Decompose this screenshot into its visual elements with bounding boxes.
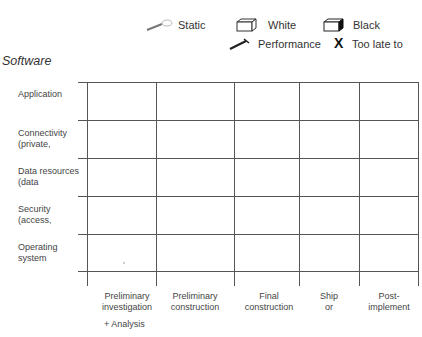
grid-vline bbox=[156, 82, 157, 286]
row-label: Security (access, bbox=[18, 204, 98, 226]
black-box-icon bbox=[323, 18, 345, 32]
grid-hline bbox=[78, 158, 419, 159]
column-label: Preliminary investigation bbox=[93, 291, 161, 313]
x-icon: X bbox=[334, 35, 343, 51]
row-label: Application bbox=[18, 89, 98, 100]
legend-label-white: White bbox=[268, 19, 296, 31]
grid-vline bbox=[359, 82, 360, 286]
legend-label-too-late: Too late to bbox=[352, 38, 403, 50]
legend-label-static: Static bbox=[178, 19, 206, 31]
performance-icon bbox=[228, 37, 252, 51]
column-label: Final construction bbox=[236, 291, 302, 313]
grid-hline bbox=[78, 271, 419, 272]
grid-hline bbox=[78, 120, 419, 121]
grid-hline bbox=[78, 234, 419, 235]
legend-label-black: Black bbox=[353, 19, 380, 31]
grid-vline bbox=[418, 82, 419, 286]
column-label: Ship or bbox=[304, 291, 354, 313]
column-label: Preliminary construction bbox=[162, 291, 228, 313]
footnote-analysis: + Analysis bbox=[104, 319, 145, 330]
row-label: Data resources (data bbox=[18, 166, 98, 188]
grid-vline bbox=[234, 82, 235, 286]
grid-vline bbox=[87, 82, 88, 286]
diagram-title: Software bbox=[2, 54, 51, 68]
row-label: Operating system bbox=[18, 242, 98, 264]
legend-label-performance: Performance bbox=[258, 38, 321, 50]
column-label: Post- implement bbox=[357, 291, 421, 313]
static-icon bbox=[145, 18, 175, 32]
white-box-icon bbox=[236, 18, 258, 32]
row-label: Connectivity (private, bbox=[18, 128, 98, 150]
grid-vline bbox=[299, 82, 300, 286]
marker-dot bbox=[123, 262, 125, 264]
grid-hline bbox=[78, 82, 419, 83]
grid-hline bbox=[78, 196, 419, 197]
